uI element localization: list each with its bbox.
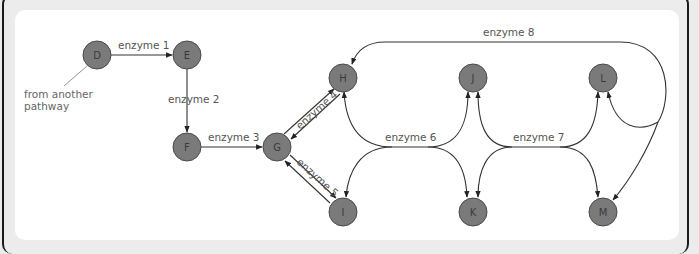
- svg-text:E: E: [184, 50, 190, 61]
- node-f: F: [173, 133, 201, 161]
- svg-text:H: H: [339, 73, 347, 84]
- node-k: K: [459, 198, 487, 226]
- edge-enzyme6-to-k: [428, 147, 467, 197]
- svg-text:M: M: [599, 207, 608, 218]
- node-j: J: [459, 64, 487, 92]
- edge-enzyme7-to-l: [560, 92, 598, 147]
- svg-text:F: F: [184, 142, 190, 153]
- svg-text:J: J: [471, 73, 475, 84]
- label-enzyme-1: enzyme 1: [118, 39, 170, 51]
- node-d: D: [83, 41, 111, 69]
- annotation-line-1: from another: [24, 88, 94, 100]
- svg-text:K: K: [470, 207, 477, 218]
- svg-text:L: L: [600, 73, 606, 84]
- edge-enzyme6-to-i: [346, 147, 392, 197]
- node-m: M: [589, 198, 617, 226]
- edge-enzyme8-to-l: [608, 92, 658, 127]
- node-i: I: [329, 198, 357, 226]
- node-h: H: [329, 64, 357, 92]
- node-l: L: [589, 64, 617, 92]
- label-enzyme-7: enzyme 7: [513, 131, 565, 143]
- label-enzyme-4: enzyme 4: [293, 88, 340, 132]
- edge-enzyme8-loop: [352, 42, 666, 122]
- svg-text:G: G: [273, 142, 281, 153]
- svg-text:I: I: [342, 207, 345, 218]
- label-enzyme-2: enzyme 2: [168, 93, 220, 105]
- label-enzyme-8: enzyme 8: [483, 26, 535, 38]
- svg-text:D: D: [93, 50, 101, 61]
- edge-enzyme8-to-m: [613, 122, 658, 200]
- edge-enzyme7-to-j: [478, 92, 512, 147]
- external-pathway-line: [64, 66, 87, 86]
- label-enzyme-5: enzyme 5: [295, 156, 341, 199]
- node-e: E: [173, 41, 201, 69]
- edge-enzyme7-to-m: [560, 147, 598, 197]
- node-g: G: [263, 133, 291, 161]
- edge-enzyme7-to-k: [478, 147, 512, 197]
- label-enzyme-6: enzyme 6: [385, 131, 437, 143]
- annotation-line-2: pathway: [24, 100, 69, 112]
- label-enzyme-3: enzyme 3: [208, 131, 260, 143]
